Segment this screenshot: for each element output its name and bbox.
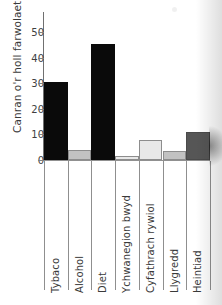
category-separator (115, 161, 116, 290)
bar-slot (44, 12, 68, 160)
category-label-llygredd: Llygredd (169, 249, 180, 293)
category-separator (186, 161, 187, 290)
bar-llygredd (163, 151, 187, 160)
bar-slot (186, 12, 210, 160)
bar-slot (68, 12, 92, 160)
category-separator (210, 161, 211, 290)
category-separator (44, 161, 45, 290)
bar-diet (91, 44, 115, 160)
category-label-ychwanegion-bwyd: Ychwanegion bwyd (121, 195, 132, 293)
category-separator (68, 161, 69, 290)
category-label-cyfathrach-rywiol: Cyfathrach rywiol (145, 203, 156, 293)
category-label-heintiad: Heintiad (192, 250, 203, 293)
category-label-alcohol: Alcohol (74, 256, 85, 293)
category-separator (91, 161, 92, 290)
bar-alcohol (68, 150, 92, 160)
bar-heintiad (186, 132, 210, 160)
bar-slot (163, 12, 187, 160)
category-label-diet: Diet (97, 272, 108, 293)
page-speck (172, 7, 177, 12)
bar-ychwanegion-bwyd (115, 156, 139, 160)
bar-slot (139, 12, 163, 160)
bar-drop-shadow (209, 126, 222, 166)
bar-chart: Canran o'r holl farwolaethau 01020304050… (0, 0, 222, 305)
category-label-tybaco: Tybaco (50, 258, 61, 293)
category-separator (163, 161, 164, 290)
category-separator (139, 161, 140, 290)
bar-slot (115, 12, 139, 160)
plot-area (44, 12, 210, 160)
bar-cyfathrach-rywiol (139, 140, 163, 160)
bar-tybaco (44, 82, 68, 160)
bar-slot (91, 12, 115, 160)
